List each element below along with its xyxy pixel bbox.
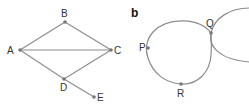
edge-a-b [20,22,65,50]
point-p [146,46,150,50]
diagram-canvas: A B C D E b P Q R [0,0,249,108]
node-label-a: A [7,45,14,56]
node-a [18,48,22,52]
circle-right [211,8,249,62]
figure: A B C D E b P Q R [0,0,249,108]
node-c [109,48,113,52]
point-label-r: R [177,88,184,99]
node-e [92,95,96,99]
node-label-b: B [61,8,68,19]
panel-a-graph: A B C D E [7,8,121,103]
edge-b-c [65,22,111,50]
node-label-c: C [114,45,121,56]
point-label-p: P [139,42,146,53]
point-r [179,82,183,86]
node-b [63,20,67,24]
node-label-d: D [60,82,67,93]
point-label-q: Q [206,18,214,29]
node-label-e: E [97,92,104,103]
node-d [62,77,66,81]
edge-d-e [64,79,94,97]
edge-c-d [64,50,111,79]
panel-b-curves: b P Q R [131,6,249,99]
edge-a-d [20,50,64,79]
loop-pqr [146,21,211,84]
point-q [209,31,213,35]
panel-label-b: b [131,6,138,20]
